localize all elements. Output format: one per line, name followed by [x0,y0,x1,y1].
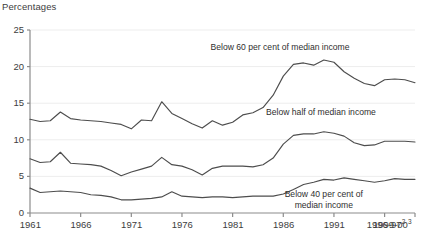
x-tick-label: 1966 [70,219,91,230]
series-annotation-2: Below half of median income [266,107,376,118]
y-tick-label: 5 [2,170,24,181]
x-tick-label: 1971 [121,219,142,230]
x-tick-label: 1981 [222,219,243,230]
chart-container: Percentages 0510152025 19611966197119761… [0,0,422,244]
series-line-1 [30,60,415,129]
y-tick-label: 20 [2,61,24,72]
y-tick-label: 25 [2,24,24,35]
series-annotation-1: Below 60 per cent of median income [211,42,350,53]
x-tick-label: 1961 [20,219,41,230]
series-line-2 [30,132,415,176]
x-tick-label: 1976 [172,219,193,230]
series-annotation-3: Below 40 per cent of median income [270,189,378,210]
y-tick-label: 10 [2,134,24,145]
x-tick-label: 1991 [324,219,345,230]
y-tick-label: 15 [2,97,24,108]
x-tick-label: 1999-003 [373,219,412,230]
x-tick-label: 1986 [273,219,294,230]
y-tick-label: 0 [2,207,24,218]
